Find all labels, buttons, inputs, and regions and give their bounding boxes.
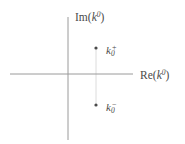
complex-plane-figure: Im(k0) Re(k0) k0+ k0−: [0, 0, 185, 144]
data-point-k0-minus: [94, 103, 97, 106]
point-label-k0-minus: k0−: [106, 101, 117, 115]
imaginary-axis-label: Im(k0): [75, 11, 104, 23]
point-label-k0-minus-superscript: −: [112, 100, 117, 109]
imaginary-axis-label-function: Im: [75, 11, 88, 23]
real-axis-label: Re(k0): [140, 69, 169, 81]
real-axis-label-close-paren: ): [165, 69, 169, 81]
real-axis-label-function: Re: [140, 69, 153, 81]
point-label-k0-plus-superscript: +: [112, 43, 117, 52]
point-label-k0-plus: k0+: [106, 44, 117, 58]
imaginary-axis-label-close-paren: ): [100, 11, 104, 23]
data-point-k0-plus: [94, 46, 97, 49]
